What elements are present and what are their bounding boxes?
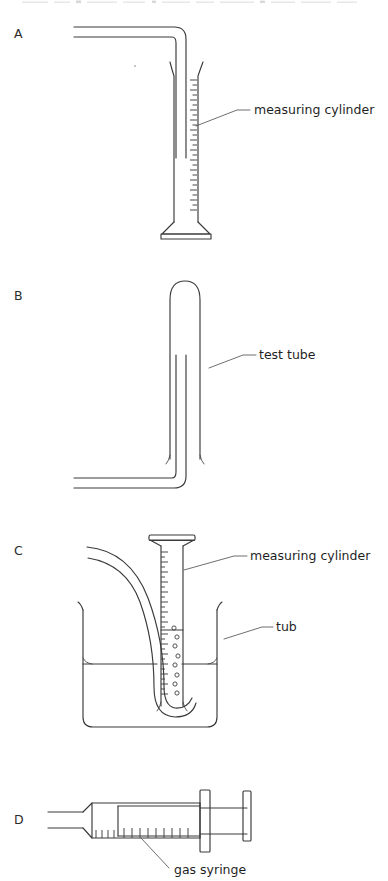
panel-a: A [14, 26, 375, 239]
panel-d: D [14, 790, 251, 877]
syringe-plunger-rod-d [200, 808, 247, 834]
cylinder-graduations-a [190, 80, 197, 210]
figure-canvas: A [0, 0, 388, 881]
test-tube-b [166, 281, 204, 464]
cylinder-graduations-c [161, 552, 168, 694]
panel-letter-b: B [14, 288, 23, 303]
delivery-tube-c [87, 547, 196, 717]
cropped-header-strip [0, 0, 388, 8]
stray-dot-artifact [134, 65, 136, 67]
callout-label-tub-c: tub [276, 619, 297, 634]
gas-collection-figure: A [0, 0, 388, 881]
syringe-inlet-tube-d [48, 812, 83, 828]
callout-tub-c: tub [224, 619, 297, 639]
callout-gas-syringe-d: gas syringe [141, 838, 246, 877]
callout-label-test-tube-b: test tube [259, 347, 316, 362]
panel-b: B test tube [14, 281, 316, 488]
delivery-tube-b [74, 355, 186, 488]
callout-measuring-cylinder-c: measuring cylinder [184, 548, 371, 570]
callout-test-tube-b: test tube [209, 347, 316, 368]
panel-letter-a: A [14, 26, 23, 41]
syringe-flange-d [200, 790, 210, 852]
delivery-tube-a [74, 27, 186, 158]
syringe-nozzle-d [83, 803, 92, 838]
callout-measuring-cylinder-a: measuring cylinder [196, 102, 375, 126]
gas-bubbles-c [172, 626, 180, 695]
tub-c [78, 602, 222, 727]
panel-letter-c: C [14, 543, 23, 558]
panel-letter-d: D [14, 812, 24, 827]
panel-c: C [14, 535, 371, 727]
callout-label-measuring-cylinder-c: measuring cylinder [250, 548, 371, 563]
callout-label-measuring-cylinder-a: measuring cylinder [254, 102, 375, 117]
callout-label-gas-syringe-d: gas syringe [174, 862, 246, 877]
